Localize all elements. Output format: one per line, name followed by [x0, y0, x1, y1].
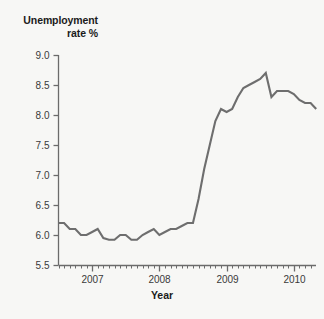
y-tick-label: 6.0 [36, 230, 50, 241]
y-tick-label: 7.0 [36, 170, 50, 181]
chart-figure: Unemployment rate % 9.08.58.07.57.06.56.… [0, 0, 324, 319]
x-axis-title: Year [0, 289, 324, 301]
x-axis-group: 2007200820092010 [59, 265, 317, 285]
x-tick-label: 2008 [148, 274, 171, 285]
x-tick-label: 2007 [81, 274, 104, 285]
unemployment-rate-line [59, 73, 317, 240]
x-tick-label: 2010 [283, 274, 306, 285]
x-axis-tick-labels: 2007200820092010 [81, 274, 306, 285]
x-tick-label: 2009 [216, 274, 239, 285]
y-tick-label: 8.5 [36, 80, 50, 91]
y-tick-label: 9.0 [36, 50, 50, 61]
y-axis-ticks [54, 56, 59, 266]
line-chart-plot: 9.08.58.07.57.06.56.05.5 200720082009201… [0, 0, 324, 319]
y-axis-tick-labels: 9.08.58.07.57.06.56.05.5 [36, 50, 50, 271]
y-axis-group: 9.08.58.07.57.06.56.05.5 [36, 50, 59, 271]
y-tick-label: 8.0 [36, 110, 50, 121]
y-tick-label: 5.5 [36, 260, 50, 271]
y-tick-label: 6.5 [36, 200, 50, 211]
y-tick-label: 7.5 [36, 140, 50, 151]
